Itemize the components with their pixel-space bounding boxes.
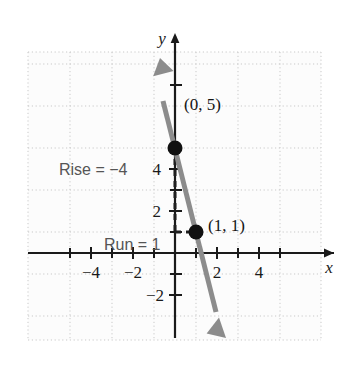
y-tick-label-4: 4	[153, 160, 162, 179]
point-label-1-1: (1, 1)	[208, 216, 245, 235]
y-tick-label-2: 2	[153, 202, 162, 221]
x-tick-label-neg2: −2	[124, 263, 142, 282]
rise-annotation: Rise = −4	[59, 161, 128, 178]
data-point-0-5	[168, 141, 183, 156]
y-tick-label-neg2: −2	[146, 286, 164, 305]
y-axis-label: y	[156, 29, 166, 48]
graph-figure: x y −4 −2 2 4 4 2 −2 (0, 5) (1, 1) Rise …	[0, 0, 359, 367]
x-tick-label-4: 4	[255, 263, 264, 282]
x-tick-label-2: 2	[213, 263, 222, 282]
x-tick-label-neg4: −4	[82, 263, 101, 282]
coordinate-plane-svg: x y −4 −2 2 4 4 2 −2 (0, 5) (1, 1) Rise …	[0, 0, 359, 367]
run-annotation: Run = 1	[104, 236, 161, 253]
x-axis-label: x	[324, 258, 333, 277]
point-label-0-5: (0, 5)	[184, 95, 221, 114]
data-point-1-1	[189, 225, 204, 240]
